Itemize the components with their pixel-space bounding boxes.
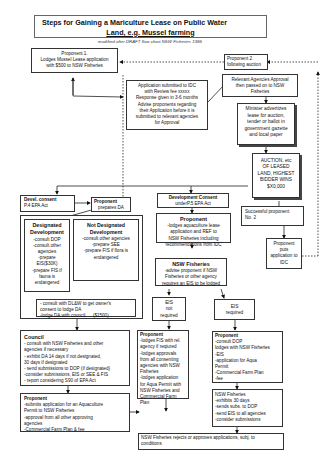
node-not-designated-development: Not Designated Development -consult othe…	[73, 219, 139, 281]
node-line: required	[156, 313, 182, 319]
node-line: -fee	[215, 376, 280, 382]
node-successful-proponent: Successful proponent No. 2	[241, 206, 304, 226]
node-line: and local paper	[241, 132, 291, 139]
node-line: -consider submissions	[215, 417, 280, 423]
node-line: requires an EIS to be lodged	[159, 281, 223, 287]
node-agencies-approval: Relevant Agencies Approval then passed o…	[222, 74, 298, 97]
node-line: endangered	[28, 280, 66, 286]
node-line: recommendations from IDC	[160, 242, 227, 248]
node-heading: Proponent	[160, 216, 227, 223]
node-proponent-2: Proponent 2 following auction	[224, 54, 268, 70]
node-line: for Approval	[130, 120, 204, 126]
node-eis-required: EIS required	[214, 299, 255, 320]
node-council: Council - consult with NSW Fisheries and…	[20, 330, 130, 386]
node-line: application to	[270, 253, 298, 259]
node-line: NSW Fisheries and	[140, 388, 186, 394]
node-puts-application: Proponent puts application to IDC	[266, 238, 302, 269]
chart-title: Steps for Gaining a Mariculture Lease on…	[34, 15, 267, 38]
node-line: underP.5 EPA Act	[160, 201, 226, 207]
node-line: following auction	[227, 62, 265, 68]
node-heading: NSW Fisheries	[159, 261, 223, 268]
node-proponent-ref: Proponent -lodges aquaculture lease appl…	[156, 213, 231, 243]
node-proponent-fis: Proponent -lodges FIS with rel. agency i…	[137, 330, 189, 399]
title-line-2: Land, e.g. Mussel farming	[39, 28, 262, 38]
node-eis-not-required: EIS not required	[152, 297, 186, 321]
node-prepares-da: Proponent prepares DA	[91, 197, 131, 212]
node-dlaw-consent: - consult with DL&W to get owner's conse…	[36, 299, 136, 317]
node-line: NSW Fisheries including	[160, 236, 227, 242]
node-line: No. 2	[245, 215, 300, 221]
node-line: -lodge DA with council	[40, 313, 85, 318]
node-development-consent: Development Consent underP.5 EPA Act	[157, 193, 229, 208]
node-proponent-1: Proponent 1. Lodges Mussel Lease applica…	[31, 48, 118, 73]
node-line: with $500 to NSW Fisheries	[35, 63, 114, 69]
node-line: prepares DA	[94, 205, 128, 211]
node-line: $X0,000	[256, 184, 296, 190]
node-heading: Not Designated Development	[77, 222, 135, 236]
node-line: -prepare FIS if flora is	[77, 248, 135, 254]
node-fee: ($1500)	[93, 313, 109, 318]
node-auction: AUCTION, etc OF LEASED LAND, HIGHEST BID…	[252, 153, 300, 198]
node-line: required	[218, 310, 251, 316]
node-line: IDC	[270, 260, 298, 266]
node-proponent-aqua-permit: Proponent -submits application for an Aq…	[20, 393, 130, 432]
node-line: tender or ballot in	[241, 119, 291, 126]
node-line: Fisheries or other agency	[159, 274, 223, 280]
node-line: Fisheries	[226, 89, 294, 95]
node-final-decision: NSW Fisheries rejects or approves applic…	[138, 433, 284, 450]
node-line: conditions	[141, 441, 281, 447]
node-line: -Commercial Farm Plan & fee	[24, 427, 126, 433]
node-designated-development: Designated Development -consult DOP -con…	[24, 219, 70, 292]
node-line: - report considering S90 of EPA Act	[24, 378, 126, 384]
node-line: P.4 EPA Act	[24, 203, 71, 209]
node-devel-consent: Devel. consent P.4 EPA Act	[20, 195, 75, 212]
node-line: government gazette	[241, 126, 291, 133]
node-nsw-fisheries-advise: NSW Fisheries -advise proponent if NSW F…	[155, 258, 227, 286]
node-nsw-fisheries-exhibit: NSW Fisheries -exhibits 30 days -sends s…	[212, 389, 283, 427]
node-line: endangered	[77, 255, 135, 261]
node-minister: Minister advertizes lease for auction, t…	[237, 103, 295, 145]
title-line-1: Steps for Gaining a Mariculture Lease on…	[39, 18, 262, 28]
subtitle: modified after DRAFT flow chart NSW Fish…	[40, 39, 260, 44]
node-line: Minister advertizes	[241, 106, 291, 113]
node-line: Advise proponents regarding	[130, 102, 204, 108]
node-line: lease for auction,	[241, 113, 291, 120]
node-proponent-dop: Proponent -consult DOP lodges with NSW F…	[212, 331, 283, 383]
node-line: BIDDER WINS	[256, 177, 296, 183]
node-heading: Council	[24, 334, 126, 341]
node-line: for Aqua Permit with	[140, 382, 186, 388]
node-line: Response given in 3-6 months	[130, 95, 204, 101]
node-line: -prepare FIS if	[28, 268, 66, 274]
node-line: -consult DOP	[28, 237, 66, 243]
node-idc-application: Application submitted to IDC with Review…	[126, 80, 208, 130]
node-line: Plan	[140, 400, 186, 406]
node-heading: Designated Development	[28, 222, 66, 237]
